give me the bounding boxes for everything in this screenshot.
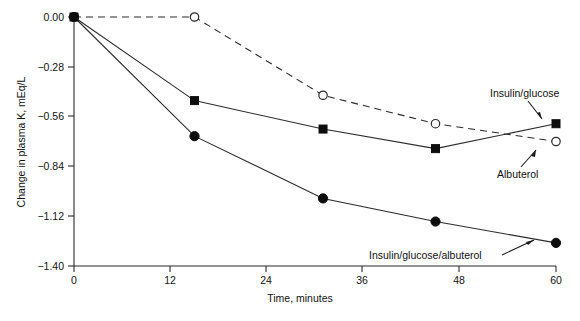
chart-canvas: 0.00 −0.28 −0.56 −0.84 −1.12 −1.40 Chang… <box>0 0 580 321</box>
series-line-insulin-glucose <box>74 17 556 149</box>
annotation-albuterol: Albuterol <box>497 150 538 180</box>
x-tick-label-5: 60 <box>550 274 562 286</box>
x-tick-label-1: 12 <box>164 274 176 286</box>
series-markers <box>69 12 560 247</box>
x-tick-label-3: 36 <box>356 274 368 286</box>
leader-arrow-albuterol <box>531 150 536 157</box>
marker-filled-circle <box>431 217 440 226</box>
y-tick-label-5: −1.40 <box>37 260 64 272</box>
x-tick-label-2: 24 <box>260 274 272 286</box>
marker-filled-circle <box>551 238 560 247</box>
marker-open-circle <box>552 137 560 145</box>
axis-lines <box>74 17 556 266</box>
y-tick-label-0: 0.00 <box>44 11 65 23</box>
annotation-label-insulin-glucose-albuterol: Insulin/glucose/albuterol <box>369 249 482 261</box>
y-tick-label-1: −0.28 <box>37 61 64 73</box>
y-axis-ticks <box>68 17 74 266</box>
annotation-label-insulin-glucose: Insulin/glucose <box>490 87 560 99</box>
series-lines <box>74 17 556 243</box>
y-axis-tick-labels: 0.00 −0.28 −0.56 −0.84 −1.12 −1.40 <box>37 11 64 272</box>
marker-open-circle <box>319 91 327 99</box>
markers-albuterol <box>70 13 560 146</box>
leader-line-albuterol <box>521 150 536 167</box>
marker-filled-square <box>552 120 560 128</box>
marker-filled-circle <box>318 194 327 203</box>
markers-insulin-glucose-albuterol <box>69 12 560 247</box>
marker-filled-square <box>191 97 199 105</box>
x-axis-tick-labels: 0 12 24 36 48 60 <box>71 274 562 286</box>
series-line-insulin-glucose-albuterol <box>74 17 556 243</box>
leader-arrow-insulin-glucose <box>537 112 542 119</box>
marker-filled-square <box>319 125 327 133</box>
y-tick-label-4: −1.12 <box>37 210 64 222</box>
chart-figure: 0.00 −0.28 −0.56 −0.84 −1.12 −1.40 Chang… <box>0 0 580 321</box>
x-axis-ticks <box>74 266 556 272</box>
annotation-label-albuterol: Albuterol <box>497 168 538 180</box>
y-axis-title: Change in plasma K, mEq/L <box>15 76 27 207</box>
leader-arrow-insulin-glucose-albuterol <box>526 240 534 245</box>
marker-open-circle <box>190 13 198 21</box>
marker-open-circle <box>431 120 439 128</box>
x-axis-title: Time, minutes <box>267 292 333 304</box>
y-tick-label-3: −0.84 <box>37 160 64 172</box>
marker-filled-square <box>432 145 440 153</box>
marker-filled-circle <box>190 132 199 141</box>
annotation-insulin-glucose-albuterol: Insulin/glucose/albuterol <box>369 240 534 261</box>
annotation-insulin-glucose: Insulin/glucose <box>490 87 560 119</box>
x-tick-label-4: 48 <box>453 274 465 286</box>
x-tick-label-0: 0 <box>71 274 77 286</box>
y-tick-label-2: −0.56 <box>37 110 64 122</box>
series-line-albuterol <box>74 17 556 142</box>
marker-filled-circle <box>69 12 78 21</box>
